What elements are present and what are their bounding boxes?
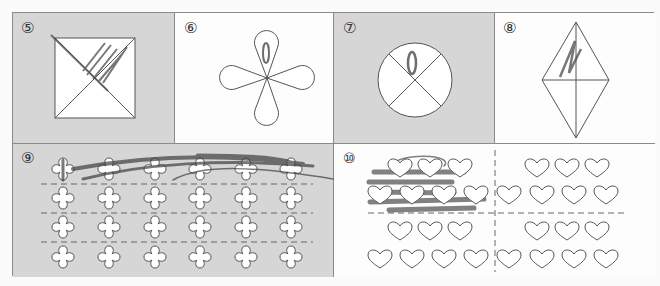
heart-groups-figure[interactable] xyxy=(334,144,655,277)
problem-10-cell: ⑩ xyxy=(334,144,655,277)
rhombus-figure[interactable] xyxy=(495,13,655,144)
square-diagonals-figure[interactable] xyxy=(13,13,175,144)
problem-6-cell: ⑥ xyxy=(175,13,334,144)
problem-8-cell: ⑧ xyxy=(495,13,655,144)
clover-grid-figure[interactable] xyxy=(13,144,334,277)
problem-9-cell: ⑨ xyxy=(13,144,334,277)
worksheet: ⑤ ⑥ ⑦ xyxy=(12,12,654,276)
circle-quarters-figure[interactable] xyxy=(334,13,495,144)
problem-7-cell: ⑦ xyxy=(334,13,495,144)
flower-figure[interactable] xyxy=(175,13,334,144)
problem-5-cell: ⑤ xyxy=(13,13,175,144)
